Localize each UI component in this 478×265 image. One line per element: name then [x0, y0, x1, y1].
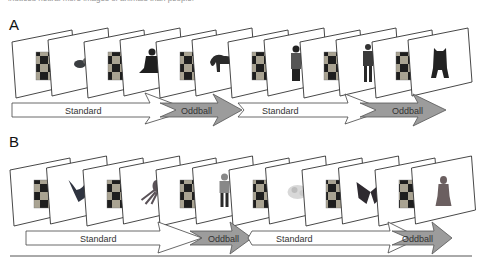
stimulus-card — [412, 156, 476, 224]
arrow-label: Standard — [65, 106, 102, 116]
panel-a-arrows: Standard Oddball Standard Oddball — [12, 93, 446, 126]
panel-a-cards — [12, 28, 472, 98]
arrow-label: Oddball — [402, 234, 433, 244]
arrow-label: Standard — [276, 234, 313, 244]
arrow-label: Standard — [80, 234, 117, 244]
standard-arrow — [238, 94, 386, 124]
panel-b-cards — [10, 156, 476, 226]
arrow-label: Standard — [262, 106, 299, 116]
panel-b-arrows: Standard Oddball Standard Oddball — [26, 222, 452, 254]
arrow-label: Oddball — [392, 106, 423, 116]
stimulus-card — [408, 28, 472, 96]
arrow-label: Oddball — [208, 234, 239, 244]
arrow-label: Oddball — [181, 106, 212, 116]
oddball-paradigm-figure: Standard Oddball Standard Oddball Standa… — [0, 0, 478, 265]
standard-arrow — [248, 222, 420, 253]
